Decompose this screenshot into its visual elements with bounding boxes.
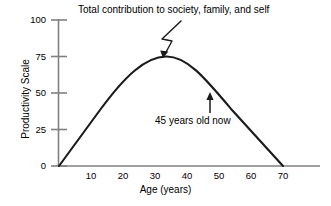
x-axis-title: Age (years) [0, 185, 331, 195]
y-axis-title: Productivity Scale [21, 29, 31, 169]
x-tick-label-60: 60 [246, 171, 257, 181]
x-tick-label-30: 30 [150, 171, 161, 181]
x-tick-label-20: 20 [118, 171, 129, 181]
current-age-arrowhead [206, 92, 213, 100]
y-tick-label-100: 100 [18, 15, 46, 25]
x-tick-label-70: 70 [278, 171, 289, 181]
curve-label-text: Total contribution to society, family, a… [78, 5, 269, 15]
x-tick-label-40: 40 [182, 171, 193, 181]
x-tick-label-10: 10 [86, 171, 97, 181]
x-tick-label-50: 50 [214, 171, 225, 181]
productivity-curve [59, 56, 283, 166]
curve-label-leader [162, 21, 181, 54]
current-age-label: 45 years old now [155, 116, 231, 126]
productivity-curve-figure: 100 75 50 25 0 10 20 30 40 50 60 70 Prod… [0, 0, 331, 206]
